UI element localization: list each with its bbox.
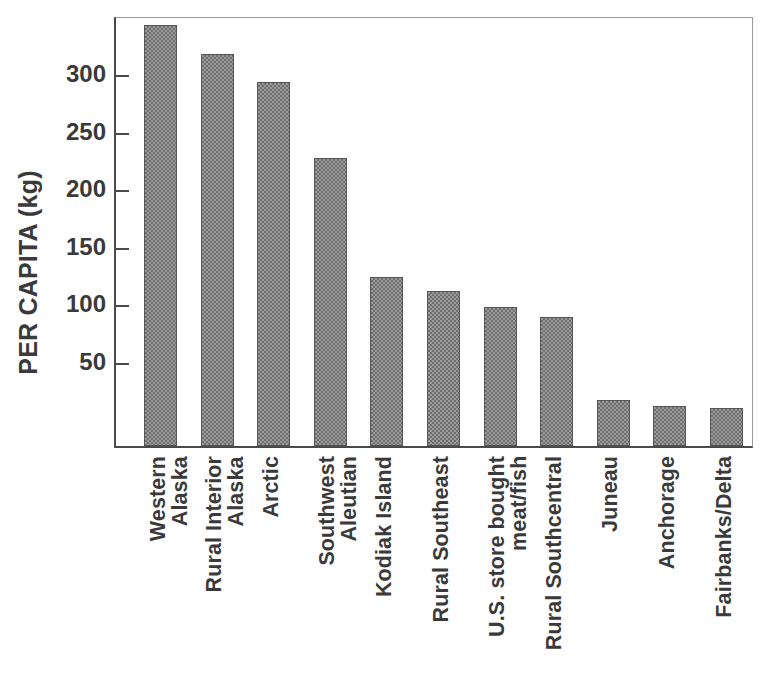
- bar: [201, 54, 234, 446]
- bar: [484, 307, 517, 446]
- y-axis-tick: [116, 133, 129, 135]
- y-axis-tick: [116, 75, 129, 77]
- y-axis-title: PER CAPITA (kg): [14, 103, 43, 443]
- bar: [427, 291, 460, 446]
- y-axis-tick-label: 50: [16, 348, 106, 376]
- x-axis-tick-label: Juneau: [599, 456, 621, 532]
- x-axis-tick-label: Rural Southeast: [430, 456, 452, 622]
- bar: [144, 25, 177, 446]
- bar: [257, 82, 290, 446]
- x-axis-tick-label: Kodiak Island: [373, 456, 395, 597]
- x-axis-tick-label: Rural Interior Alaska: [203, 456, 248, 592]
- y-axis-tick-label: 150: [16, 233, 106, 261]
- x-axis-tick-label: Rural Southcentral: [543, 456, 565, 650]
- x-axis-tick-label: Southwest Aleutian: [316, 456, 361, 566]
- y-axis-tick: [116, 248, 129, 250]
- y-axis-tick-label: 100: [16, 290, 106, 318]
- y-axis-tick-label: 250: [16, 118, 106, 146]
- bar: [597, 400, 630, 446]
- bar: [314, 158, 347, 446]
- y-axis-tick: [116, 190, 129, 192]
- x-axis-tick-label: U.S. store bought meat/fish: [486, 456, 531, 637]
- y-axis-tick: [116, 363, 129, 365]
- bar-chart: PER CAPITA (kg) 50100150200250300 Wester…: [0, 0, 777, 696]
- bar: [710, 408, 743, 446]
- y-axis-tick: [116, 305, 129, 307]
- y-axis-tick-label: 300: [16, 60, 106, 88]
- bar: [540, 317, 573, 446]
- x-axis-tick-label: Anchorage: [656, 456, 678, 569]
- x-axis-tick-label: Western Alaska: [147, 456, 192, 541]
- plot-area: [114, 17, 753, 448]
- y-axis-tick-label: 200: [16, 175, 106, 203]
- x-axis-tick-label: Arctic: [260, 456, 282, 518]
- x-axis-tick-label: Fairbanks/Delta: [713, 456, 735, 618]
- bar: [370, 277, 403, 446]
- bar: [653, 406, 686, 446]
